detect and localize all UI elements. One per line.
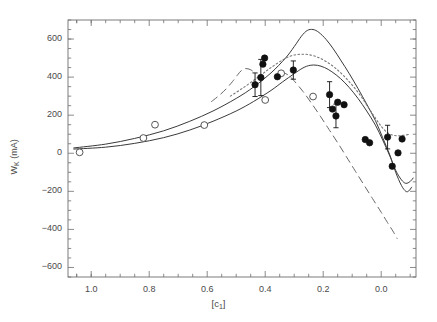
data-point-open	[201, 122, 208, 129]
data-point-open	[152, 121, 159, 128]
data-point-filled	[274, 74, 280, 80]
figure: 6004002000−200−400−600 1.00.80.60.40.20.…	[0, 0, 437, 322]
x-tick-label: 0.0	[361, 284, 401, 294]
data-point-filled	[384, 134, 390, 140]
errorbar-layer	[252, 59, 390, 148]
curve-layer	[74, 29, 413, 238]
x-axis-title: [c1]	[0, 298, 437, 310]
y-tick-label: −400	[22, 223, 62, 233]
curve-solid-curve-lower	[74, 65, 413, 183]
y-tick-label: −200	[22, 185, 62, 195]
marker-layer	[76, 55, 405, 170]
y-tick-label: 200	[22, 109, 62, 119]
data-point-filled	[335, 99, 341, 105]
axes-frame	[68, 20, 416, 277]
y-tick-label: 0	[22, 147, 62, 157]
y-axis-title: WK (mA)	[8, 125, 22, 163]
y-tick-label: 600	[22, 33, 62, 43]
data-point-filled	[260, 61, 266, 67]
x-tick-label: 0.6	[187, 284, 227, 294]
x-tick-label: 0.4	[245, 284, 285, 294]
plot-canvas	[0, 0, 437, 322]
data-point-filled	[258, 74, 264, 80]
curve-solid-curve-upper	[74, 29, 412, 191]
data-point-filled	[341, 102, 347, 108]
data-point-open	[140, 135, 147, 142]
x-tick-label: 0.8	[129, 284, 169, 294]
x-axis-title-prefix: [c	[212, 298, 219, 309]
data-point-filled	[389, 163, 395, 169]
y-axis-title-units: (mA)	[9, 139, 19, 161]
x-tick-label: 0.2	[303, 284, 343, 294]
y-tick-label: 400	[22, 71, 62, 81]
y-tick-label: −600	[22, 261, 62, 271]
data-point-filled	[333, 113, 339, 119]
data-point-filled	[252, 82, 258, 88]
axis-ticks	[68, 20, 416, 277]
data-point-filled	[366, 140, 372, 146]
data-point-filled	[326, 91, 332, 97]
data-point-filled	[329, 106, 335, 112]
data-point-filled	[290, 67, 296, 73]
x-axis-title-suffix: ]	[223, 298, 226, 309]
curve-dashed-line-steep	[281, 71, 397, 238]
data-point-open	[262, 97, 269, 104]
x-tick-label: 1.0	[71, 284, 111, 294]
data-point-open	[76, 149, 83, 156]
data-point-open	[310, 93, 317, 100]
data-point-filled	[399, 136, 405, 142]
data-point-filled	[261, 55, 267, 61]
y-axis-title-sub: K	[13, 161, 20, 166]
data-point-filled	[395, 150, 401, 156]
